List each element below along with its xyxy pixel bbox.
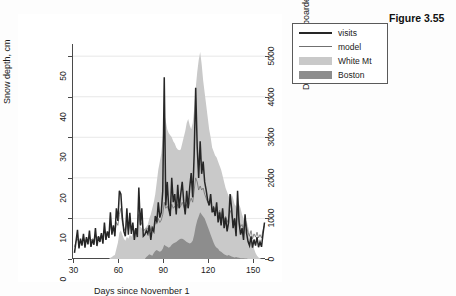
y-axis-left-tickmark [68, 56, 72, 57]
y-axis-left-title: Snow depth, cm [2, 39, 12, 104]
y-axis-right-tick-label: 4000 [266, 82, 276, 112]
y-axis-right-tick-label: 2000 [266, 163, 276, 193]
y-axis-left-tick-label: 20 [58, 188, 68, 208]
x-axis-tickmark [118, 259, 119, 263]
legend-label: Boston [338, 70, 364, 80]
legend-key-icon [299, 57, 332, 65]
y-axis-right-tick-label: 0 [266, 244, 276, 274]
y-axis-left-tick-label: 30 [58, 147, 68, 167]
legend-item-boston[interactable]: Boston [293, 69, 389, 82]
figure-root: 01020304050 010002000300040005000 306090… [0, 0, 456, 296]
x-axis-tickmark [163, 259, 164, 263]
x-axis-tick-label: 150 [241, 265, 265, 275]
legend-item-model[interactable]: model [293, 41, 389, 54]
legend-label: model [338, 42, 361, 52]
legend-item-visits[interactable]: visits [293, 27, 389, 40]
legend-label: White Mt [338, 56, 372, 66]
x-axis-tickmark [73, 259, 74, 263]
x-axis-tick-label: 90 [151, 265, 175, 275]
legend-key-icon [299, 71, 332, 79]
y-axis-left-tickmark [68, 97, 72, 98]
y-axis-left-tickmark [68, 218, 72, 219]
x-axis-tickmark [253, 259, 254, 263]
x-axis-title: Days since November 1 [94, 286, 190, 296]
y-axis-right-tick-label: 1000 [266, 203, 276, 233]
x-axis-tick-label: 60 [106, 265, 130, 275]
y-axis-right-tick-label: 3000 [266, 122, 276, 152]
x-axis-tick-label: 30 [61, 265, 85, 275]
plot-svg [73, 44, 266, 259]
graph-canvas: 01020304050 010002000300040005000 306090… [18, 14, 282, 282]
legend-key-icon [299, 32, 332, 34]
plot-region [72, 44, 265, 259]
legend-key-icon [299, 46, 332, 47]
y-axis-left-tick-label: 10 [58, 228, 68, 248]
y-axis-left-tickmark [68, 178, 72, 179]
y-axis-right-tick-label: 5000 [266, 41, 276, 71]
x-axis-tickmark [208, 259, 209, 263]
chart-legend: visitsmodelWhite MtBoston [292, 23, 388, 84]
legend-item-white-mt[interactable]: White Mt [293, 55, 389, 68]
x-axis-tick-label: 120 [196, 265, 220, 275]
figure-caption: Figure 3.55 [389, 12, 444, 24]
y-axis-left-tickmark [68, 137, 72, 138]
y-axis-left-tick-label: 50 [58, 66, 68, 86]
y-axis-left-tick-label: 40 [58, 107, 68, 127]
legend-label: visits [338, 28, 357, 38]
y-axis-left-tickmark [68, 259, 72, 260]
